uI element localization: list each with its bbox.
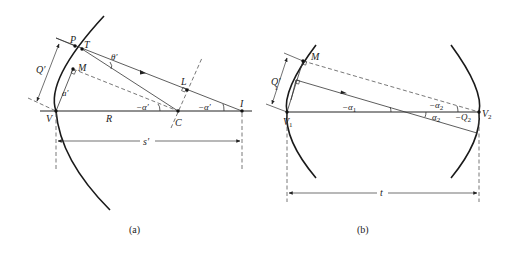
label-m-b: M <box>310 51 320 62</box>
label-alpha2-bottom: α2 <box>432 112 441 124</box>
label-neg-alpha-prime-c: −α′ <box>136 102 150 112</box>
q1-prime-ext-top <box>284 53 303 61</box>
dashed-m-to-c <box>73 69 178 111</box>
ray-b <box>296 80 477 133</box>
label-v2: V2 <box>482 108 492 121</box>
point-i <box>240 109 243 112</box>
point-c <box>176 109 179 112</box>
ray-arrow-a <box>140 70 146 75</box>
optics-figure: P T M V C L I Q′ a′ θ′ R −α′ −α′ s′ (a) <box>0 0 512 253</box>
label-neg-alpha2-top: −α2 <box>429 100 444 112</box>
label-s-prime: s′ <box>143 136 150 147</box>
label-p: P <box>69 34 76 45</box>
point-v <box>54 109 57 112</box>
label-v: V <box>46 113 54 124</box>
right-angle-foot-b <box>295 80 299 84</box>
line-v1-to-m <box>287 61 303 112</box>
label-t: t <box>380 187 383 198</box>
q1-prime-ext-bottom <box>266 104 287 112</box>
dashed-m-to-v2 <box>303 61 479 112</box>
label-c: C <box>175 117 182 128</box>
label-q1-prime: Q′1 <box>271 76 281 92</box>
caption-a: (a) <box>129 224 140 236</box>
caption-b: (b) <box>357 224 369 236</box>
point-v1 <box>285 110 288 113</box>
angle-arc-alpha2-bottom <box>425 112 426 117</box>
angle-arc-c <box>158 104 160 111</box>
q-prime-ext-bottom <box>28 98 56 111</box>
mirror-arc-a <box>54 16 110 210</box>
point-m <box>71 67 74 70</box>
ray-arrow-b <box>341 91 348 95</box>
point-v2 <box>477 110 480 113</box>
point-m-b <box>301 59 304 62</box>
label-theta-prime: θ′ <box>111 52 118 62</box>
label-t: T <box>84 39 91 50</box>
label-i: I <box>239 98 244 109</box>
point-l <box>185 88 188 91</box>
panel-a: P T M V C L I Q′ a′ θ′ R −α′ −α′ s′ (a) <box>28 16 252 236</box>
label-r: R <box>105 113 112 124</box>
label-q-prime: Q′ <box>36 64 46 75</box>
angle-arc-i <box>223 104 224 111</box>
label-neg-alpha-prime-i: −α′ <box>198 102 212 112</box>
label-neg-q2: −Q2 <box>455 112 472 124</box>
label-l: L <box>180 76 187 87</box>
label-m: M <box>77 62 87 73</box>
panel-b: M V1 V2 Q′1 −α1 −α2 α2 −Q2 t (b) <box>266 45 492 236</box>
label-a-prime: a′ <box>62 88 70 98</box>
